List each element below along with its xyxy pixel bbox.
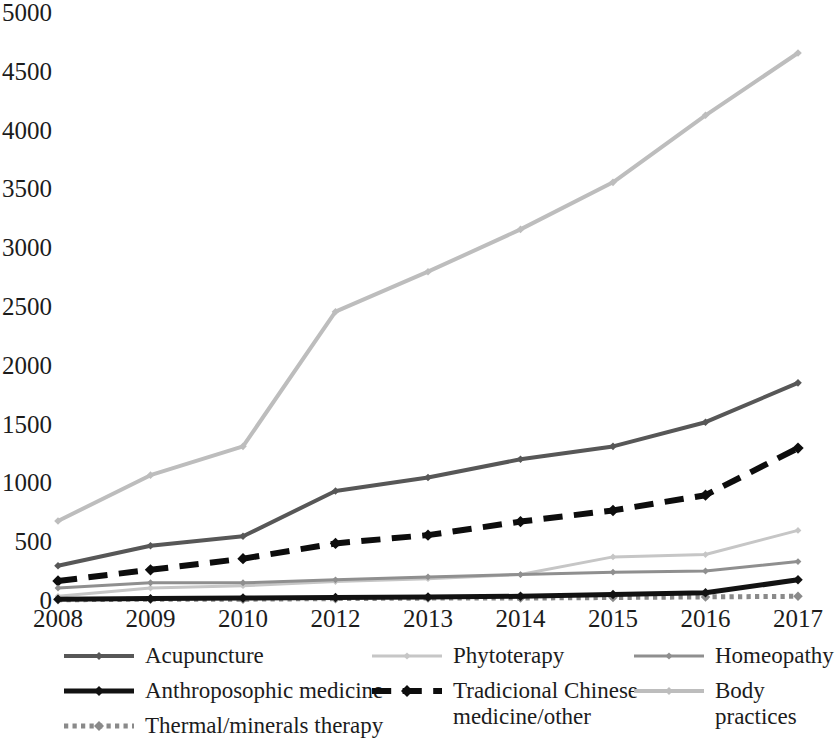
y-tick-label: 2000 (2, 353, 52, 378)
data-point-marker (330, 538, 341, 549)
data-point-marker (146, 594, 156, 604)
legend-line-swatch-icon (62, 714, 136, 738)
data-point-marker (610, 569, 617, 576)
legend-line-swatch-icon (370, 679, 444, 703)
legend-line-swatch-icon (632, 679, 706, 703)
y-tick-label: 1000 (2, 470, 52, 495)
data-point-marker (702, 551, 709, 558)
x-axis-tick-labels: 200820092010201220132014201520162017 (0, 604, 839, 640)
y-tick-label: 4000 (2, 118, 52, 143)
plot-area (0, 0, 839, 640)
data-point-marker (424, 474, 432, 482)
legend-line-swatch-icon (632, 644, 706, 668)
y-tick-label: 500 (15, 529, 53, 554)
y-axis-tick-labels: 0500100015002000250030003500400045005000 (0, 0, 52, 640)
legend-line-swatch-icon (62, 679, 136, 703)
data-point-marker (55, 585, 62, 592)
y-tick-label: 2500 (2, 294, 52, 319)
data-point-marker (54, 562, 62, 570)
data-point-marker (145, 564, 156, 575)
legend-item[interactable]: Anthroposophic medicine (62, 678, 383, 704)
data-point-marker (147, 542, 155, 550)
y-tick-label: 3500 (2, 176, 52, 201)
y-tick-label: 1500 (2, 412, 52, 437)
data-point-marker (517, 455, 525, 463)
legend-label: Phytoterapy (453, 643, 564, 669)
legend-label: Tradicional Chinese medicine/other (453, 678, 638, 730)
legend-item[interactable]: Acupuncture (62, 643, 264, 669)
x-tick-label: 2016 (681, 606, 731, 631)
data-point-marker (147, 579, 154, 586)
x-tick-label: 2014 (496, 606, 546, 631)
legend-item[interactable]: Tradicional Chinese medicine/other (370, 678, 638, 730)
data-point-marker (517, 571, 524, 578)
data-point-marker (237, 553, 248, 564)
data-point-marker (795, 527, 802, 534)
x-tick-label: 2015 (588, 606, 638, 631)
data-point-marker (515, 516, 526, 527)
legend-item[interactable]: Homeopathy (632, 643, 834, 669)
chart-legend: AcupuncturePhytoterapyHomeopathyAnthropo… (0, 641, 839, 732)
y-tick-label: 5000 (2, 0, 52, 25)
x-tick-label: 2008 (33, 606, 83, 631)
x-tick-label: 2013 (403, 606, 453, 631)
data-point-marker (793, 575, 803, 585)
legend-label: Thermal/minerals therapy (145, 713, 383, 739)
legend-item[interactable]: Body practices (632, 678, 839, 730)
series-body-practices (54, 49, 802, 525)
series-layer (52, 49, 803, 604)
x-tick-label: 2017 (773, 606, 823, 631)
data-point-marker (607, 505, 618, 516)
series-line (58, 53, 798, 521)
x-tick-label: 2009 (126, 606, 176, 631)
y-tick-label: 4500 (2, 59, 52, 84)
legend-item[interactable]: Phytoterapy (370, 643, 564, 669)
legend-label: Acupuncture (145, 643, 264, 669)
data-point-marker (795, 558, 802, 565)
data-point-marker (793, 592, 803, 602)
data-point-marker (610, 554, 617, 561)
legend-line-swatch-icon (370, 644, 444, 668)
data-point-marker (702, 568, 709, 575)
y-tick-label: 3000 (2, 235, 52, 260)
series-acupuncture (54, 379, 802, 569)
chart-canvas (0, 0, 839, 640)
legend-item[interactable]: Thermal/minerals therapy (62, 713, 383, 739)
x-tick-label: 2012 (311, 606, 361, 631)
series-tradicional-chinese-medicine-other (52, 442, 803, 586)
legend-line-swatch-icon (62, 644, 136, 668)
data-point-marker (422, 529, 433, 540)
x-tick-label: 2010 (218, 606, 268, 631)
legend-label: Body practices (715, 678, 839, 730)
legend-label: Anthroposophic medicine (145, 678, 383, 704)
legend-label: Homeopathy (715, 643, 834, 669)
